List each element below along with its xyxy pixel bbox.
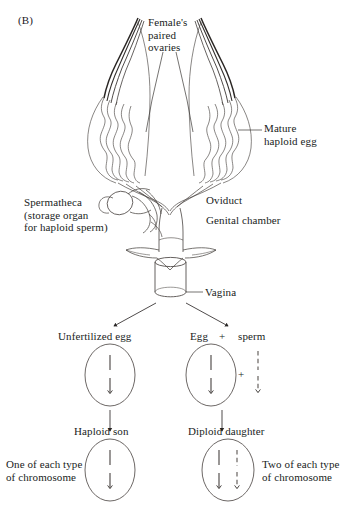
ovary-group-left	[88, 18, 150, 183]
label-diploid-daughter: Diploid daughter	[188, 425, 264, 438]
label-unfertilized-egg: Unfertilized egg	[58, 330, 131, 343]
reproductive-tract-diagram	[0, 0, 340, 507]
label-haploid-son: Haploid son	[74, 425, 129, 438]
panel-label: (B)	[18, 14, 33, 27]
arrow-to-egg-plus-sperm	[186, 303, 228, 326]
label-spermatheca: Spermatheca (storage organ for haploid s…	[24, 196, 108, 234]
label-paired-ovaries: Female's paired ovaries	[148, 16, 187, 54]
label-oviduct: Oviduct	[206, 194, 242, 207]
branch-arrows-from-vagina	[114, 303, 228, 326]
left-cell-oval	[85, 344, 135, 406]
common-oviduct-and-genital-chamber	[159, 208, 183, 252]
spermatheca-organ	[104, 187, 161, 233]
haploid-son-oval	[85, 439, 135, 501]
label-egg-sperm-plus: +	[219, 330, 225, 343]
ovary-group-right	[189, 18, 251, 183]
accessory-gland-loops	[99, 197, 162, 237]
label-sperm: sperm	[238, 330, 265, 343]
vagina-cylinder	[155, 257, 186, 296]
label-vagina: Vagina	[205, 286, 236, 299]
label-two-of-each-chromosome: Two of each type of chromosome	[262, 458, 340, 483]
label-fusion-plus: +	[238, 368, 244, 381]
label-one-of-each-chromosome: One of each type of chromosome	[6, 458, 82, 483]
right-cell-oval	[186, 344, 236, 406]
label-mature-haploid-egg: Mature haploid egg	[264, 122, 317, 147]
figure-panel-b: (B) Female's paired ovaries Mature haplo…	[0, 0, 340, 507]
arrow-to-unfertilized-egg	[114, 303, 156, 326]
label-egg: Egg	[190, 330, 208, 343]
label-genital-chamber: Genital chamber	[206, 214, 281, 227]
diploid-daughter-oval	[202, 439, 254, 501]
ovary-leader-lines	[146, 52, 193, 132]
